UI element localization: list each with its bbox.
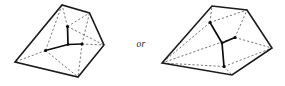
tripod-arm-u2 xyxy=(222,38,235,44)
right-dashed-spokes xyxy=(162,6,272,75)
dashed-spoke-u1-w1 xyxy=(162,23,210,64)
tripod-tip-node-t2 xyxy=(44,49,47,52)
connector-or-label: or xyxy=(137,39,146,49)
tripod-tip-node-t3 xyxy=(80,42,83,45)
dashed-spoke-t1-v2 xyxy=(62,5,68,27)
dashed-spoke-t3-v4 xyxy=(82,44,104,45)
tripod-center-node-d xyxy=(221,42,224,45)
tripod-arm-u1 xyxy=(210,23,222,44)
dashed-spoke-t1-v3 xyxy=(68,13,90,27)
tripod-arm-t3 xyxy=(68,44,82,45)
tripod-arm-t1 xyxy=(68,27,69,45)
dashed-spoke-u1-w3 xyxy=(210,10,247,23)
tripod-arm-t2 xyxy=(46,45,69,51)
right-polytope-group xyxy=(162,6,272,75)
tripod-tip-node-u3 xyxy=(222,65,225,68)
tripod-arm-u3 xyxy=(222,43,224,67)
tripod-tip-node-u1 xyxy=(208,21,211,24)
left-tripod-arms xyxy=(46,27,83,51)
right-tripod-arms xyxy=(210,23,235,67)
tripod-tip-node-t1 xyxy=(66,25,69,28)
left-polytope-group xyxy=(15,5,104,77)
dashed-spoke-t2-v2 xyxy=(46,5,63,51)
tripod-tip-node-u2 xyxy=(233,36,236,39)
left-hull-outline xyxy=(15,5,104,77)
tripod-center-node-c xyxy=(67,43,70,46)
dashed-spoke-t3-v3 xyxy=(82,13,90,44)
dashed-spoke-u2-w3 xyxy=(235,10,247,38)
dashed-spoke-t1-v4 xyxy=(68,27,105,46)
right-hull-outline xyxy=(162,6,272,75)
polytope-figure-canvas: or xyxy=(0,0,285,86)
